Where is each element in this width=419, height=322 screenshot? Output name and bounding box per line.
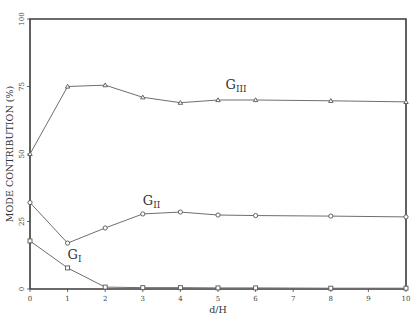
y-tick-label: 0 <box>18 287 26 291</box>
plot-border <box>30 19 406 289</box>
triangle-marker <box>404 100 408 104</box>
triangle-marker <box>28 152 32 156</box>
circle-marker <box>66 241 70 245</box>
circle-marker <box>28 201 32 205</box>
x-tick-label: 3 <box>141 295 145 303</box>
circle-marker <box>178 210 182 214</box>
series-line <box>30 85 406 154</box>
triangle-marker <box>216 98 220 102</box>
triangle-marker <box>253 98 257 102</box>
square-marker <box>141 286 145 290</box>
x-tick-label: 6 <box>253 295 258 303</box>
triangle-marker <box>329 99 333 103</box>
x-tick-label: 9 <box>366 295 370 303</box>
series-line <box>30 241 406 288</box>
square-marker <box>404 286 408 290</box>
series-gii <box>28 201 408 246</box>
series-label-giii: GIII <box>226 77 248 94</box>
square-marker <box>28 239 32 243</box>
triangle-marker <box>178 101 182 105</box>
series-labels: GIIIGIIGI <box>68 77 247 264</box>
circle-marker <box>103 226 107 230</box>
circle-marker <box>141 212 145 216</box>
circle-marker <box>216 213 220 217</box>
circle-marker <box>329 214 333 218</box>
square-marker <box>329 286 333 290</box>
x-axis-ticks: 012345678910 <box>28 289 411 303</box>
y-tick-label: 75 <box>18 82 26 91</box>
series-giii <box>28 83 408 156</box>
square-marker <box>254 286 258 290</box>
x-tick-label: 4 <box>178 295 183 303</box>
y-tick-label: 50 <box>18 150 26 159</box>
x-tick-label: 0 <box>28 295 32 303</box>
triangle-marker <box>141 95 145 99</box>
y-axis-ticks: 0255075100 <box>18 12 30 291</box>
y-tick-label: 25 <box>18 217 26 226</box>
circle-marker <box>404 215 408 219</box>
y-tick-label: 100 <box>18 12 26 25</box>
triangle-marker <box>103 83 107 87</box>
triangle-marker <box>65 84 69 88</box>
line-chart: 012345678910 0255075100 GIIIGIIGI d/H MO… <box>0 0 419 322</box>
x-tick-label: 5 <box>216 295 220 303</box>
series-label-gii: GII <box>143 193 161 210</box>
series-group <box>28 83 408 290</box>
series-gi <box>28 239 408 290</box>
x-tick-label: 8 <box>329 295 333 303</box>
square-marker <box>103 285 107 289</box>
x-tick-label: 2 <box>103 295 107 303</box>
x-tick-label: 7 <box>291 295 295 303</box>
square-marker <box>178 286 182 290</box>
series-label-gi: GI <box>68 247 82 264</box>
x-tick-label: 10 <box>402 295 411 303</box>
y-axis-title: MODE CONTRIBUTION (%) <box>4 86 15 222</box>
x-axis-title: d/H <box>209 304 227 315</box>
x-tick-label: 1 <box>65 295 69 303</box>
plot-frame <box>30 19 406 289</box>
circle-marker <box>254 213 258 217</box>
square-marker <box>66 266 70 270</box>
square-marker <box>216 286 220 290</box>
series-line <box>30 203 406 244</box>
